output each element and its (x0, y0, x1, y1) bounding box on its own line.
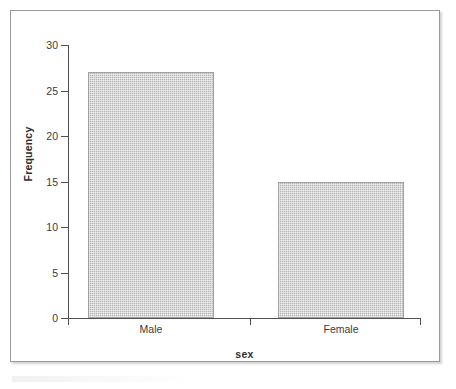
category-label-female: Female (301, 324, 381, 335)
y-axis-tick-label: 0 (32, 313, 58, 324)
y-axis-tick-label: 25 (32, 86, 58, 97)
x-axis-line (68, 318, 421, 319)
y-axis-tick (61, 136, 68, 137)
y-axis-tick-label: 20 (32, 131, 58, 142)
y-axis-tick (61, 273, 68, 274)
y-axis-title: Frequency (22, 114, 34, 194)
y-axis-tick (61, 91, 68, 92)
category-label-male: Male (111, 324, 191, 335)
y-axis-tick (61, 182, 68, 183)
x-axis-title: sex (68, 348, 421, 360)
y-axis-tick-label: 5 (32, 268, 58, 279)
x-axis-left-cap (68, 318, 69, 325)
figure-page: 051015202530 MaleFemale sex Frequency (0, 0, 456, 389)
x-axis-group-separator (250, 318, 251, 325)
y-axis-tick (61, 45, 68, 46)
bar-chart: 051015202530 MaleFemale sex Frequency (0, 0, 456, 389)
y-axis-tick-label: 10 (32, 222, 58, 233)
y-axis-tick (61, 318, 68, 319)
y-axis-line (68, 45, 69, 319)
y-axis-tick-label: 15 (32, 177, 58, 188)
y-axis-tick (61, 227, 68, 228)
bar-female (278, 182, 404, 319)
bar-male (88, 72, 214, 318)
clipped-caption-sliver (12, 376, 192, 382)
x-axis-right-cap (420, 318, 421, 325)
y-axis-tick-label: 30 (32, 40, 58, 51)
